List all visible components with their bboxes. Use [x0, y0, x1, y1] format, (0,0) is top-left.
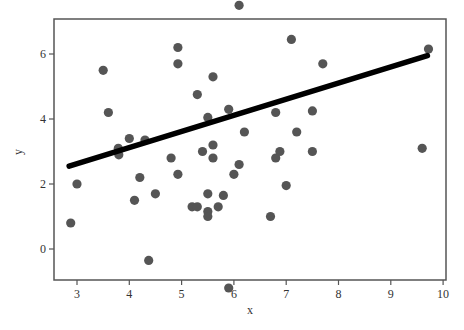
data-point — [292, 127, 301, 136]
data-point — [282, 181, 291, 190]
y-axis-label: y — [11, 149, 25, 155]
data-point — [173, 43, 182, 52]
data-point — [173, 170, 182, 179]
data-point — [287, 35, 296, 44]
data-point — [66, 218, 75, 227]
y-axis: 02468101214 — [34, 0, 54, 256]
data-point — [235, 160, 244, 169]
y-tick-label: 2 — [40, 177, 46, 191]
data-point — [224, 105, 233, 114]
data-point — [203, 212, 212, 221]
x-axis-label: x — [247, 303, 253, 317]
plot-area — [54, 19, 446, 280]
data-point — [125, 134, 134, 143]
data-point — [104, 108, 113, 117]
data-point — [151, 189, 160, 198]
data-point — [208, 72, 217, 81]
x-tick-label: 9 — [388, 287, 394, 301]
data-point — [173, 59, 182, 68]
data-point — [318, 59, 327, 68]
x-tick-label: 10 — [437, 287, 449, 301]
x-tick-label: 4 — [126, 287, 132, 301]
data-point — [167, 153, 176, 162]
data-point — [193, 202, 202, 211]
data-point — [308, 147, 317, 156]
x-tick-label: 8 — [336, 287, 342, 301]
data-point — [424, 45, 433, 54]
data-point — [135, 173, 144, 182]
data-point — [219, 191, 228, 200]
x-tick-label: 5 — [179, 287, 185, 301]
data-point — [271, 108, 280, 117]
scatter-chart: 345678910 02468101214 x y — [0, 0, 464, 330]
data-point — [266, 212, 275, 221]
plot-frame — [54, 19, 446, 280]
y-tick-label: 6 — [40, 47, 46, 61]
data-point — [208, 140, 217, 149]
data-point — [308, 106, 317, 115]
data-point — [144, 256, 153, 265]
data-point — [193, 90, 202, 99]
data-point — [130, 196, 139, 205]
data-point — [208, 153, 217, 162]
x-axis: 345678910 — [74, 280, 449, 301]
data-point — [275, 147, 284, 156]
x-tick-label: 7 — [283, 287, 289, 301]
data-point — [72, 179, 81, 188]
x-tick-label: 6 — [231, 287, 237, 301]
data-point — [214, 202, 223, 211]
data-point — [418, 144, 427, 153]
data-point — [198, 147, 207, 156]
x-tick-label: 3 — [74, 287, 80, 301]
y-tick-label: 4 — [40, 112, 46, 126]
data-point — [229, 170, 238, 179]
data-point — [203, 189, 212, 198]
y-tick-label: 0 — [40, 242, 46, 256]
data-point — [235, 1, 244, 10]
data-point — [240, 127, 249, 136]
data-point — [99, 66, 108, 75]
